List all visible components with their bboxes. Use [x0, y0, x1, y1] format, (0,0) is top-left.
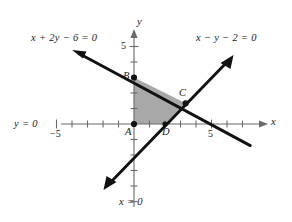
line-2-equation-label: x − y − 2 = 0: [196, 33, 257, 44]
shaded-feasible-region: [134, 78, 186, 125]
point-label-B: B: [123, 71, 129, 82]
point-label-C: C: [179, 88, 186, 99]
point-label-A: A: [125, 127, 131, 138]
point-C-marker: [183, 100, 189, 106]
x-axis-equation-label: y = 0: [14, 119, 38, 130]
coordinate-plane-figure: x + 2y − 6 = 0 x − y − 2 = 0 y = 0 x = 0…: [0, 0, 292, 222]
x-tick-label-minus5: −5: [50, 129, 61, 139]
y-tick-label-5: 5: [121, 41, 126, 51]
line-1-equation-label: x + 2y − 6 = 0: [31, 33, 97, 44]
y-axis-name-label: y: [137, 17, 142, 28]
x-axis-name-label: x: [271, 117, 276, 128]
point-A-marker: [131, 121, 137, 127]
y-axis-equation-label: x = 0: [119, 197, 143, 208]
point-B-marker: [131, 74, 137, 80]
x-tick-label-5: 5: [208, 129, 213, 139]
point-label-D: D: [162, 127, 170, 138]
